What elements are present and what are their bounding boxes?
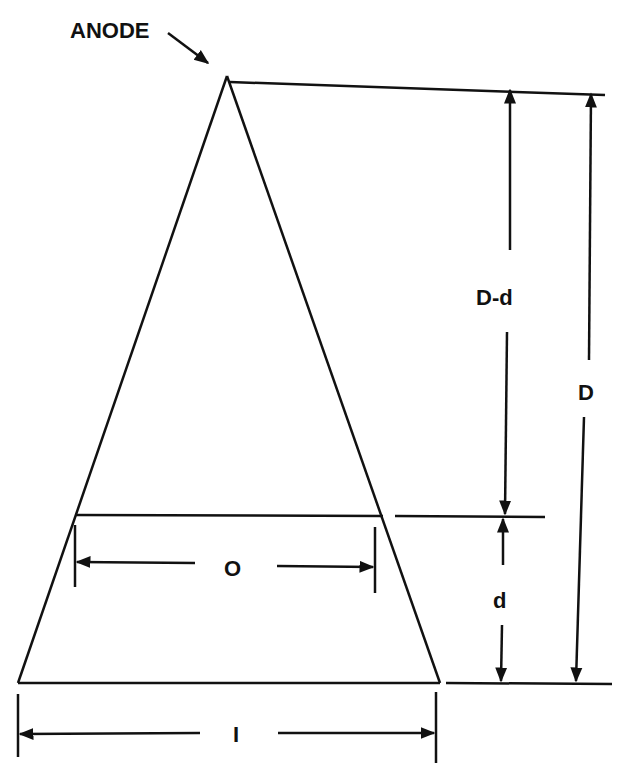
top-reference-line [230,82,605,95]
d-minus-d-label: D-d [476,285,513,310]
i-label: I [233,722,239,747]
anode-geometry-diagram: ANODE D-d d D O I [0,0,634,779]
d-label: d [493,588,506,613]
object-plane-line [75,515,383,516]
right-edge-line [227,76,440,683]
image-plane-extension [446,683,612,684]
d-minus-d-arrow-down [505,332,507,514]
big-d-arrow-up [589,94,591,360]
i-arrow-left [20,733,200,734]
anode-pointer-arrow [168,33,208,63]
big-d-label: D [578,380,594,405]
o-arrow-right [277,566,373,567]
o-label: O [224,556,241,581]
anode-label: ANODE [70,18,149,43]
o-arrow-left [77,562,195,563]
big-d-arrow-down [576,417,584,681]
left-edge-line [18,76,227,683]
d-arrow-down [501,625,502,681]
object-plane-extension [395,516,545,517]
